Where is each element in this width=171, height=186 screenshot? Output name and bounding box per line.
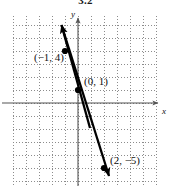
plot-canvas — [0, 0, 171, 186]
graph-figure: 3.2 (−1, 4) (0, 1) (2, −5) y x — [0, 0, 171, 186]
plotted-line-lower — [62, 25, 110, 176]
data-point-label-c: (2, −5) — [110, 155, 140, 166]
x-axis-label: x — [162, 107, 166, 116]
data-point-b — [75, 87, 81, 93]
data-point-c — [101, 165, 107, 171]
data-point-label-a: (−1, 4) — [34, 52, 64, 63]
data-point-label-b: (0, 1) — [84, 76, 108, 87]
y-axis-label: y — [71, 10, 75, 19]
